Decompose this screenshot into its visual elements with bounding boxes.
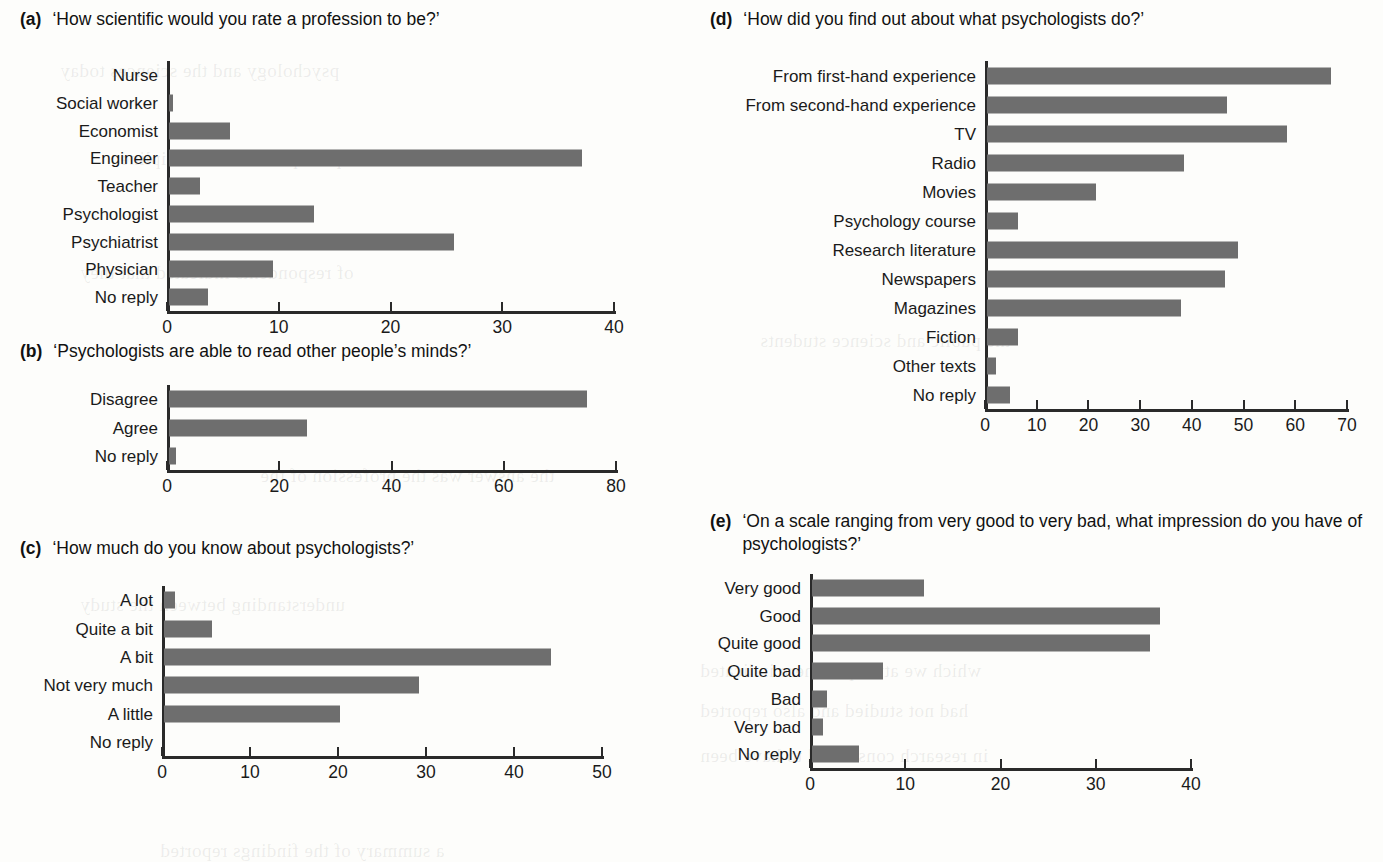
- x-axis-tick-label: 30: [493, 319, 512, 337]
- category-label: Teacher: [98, 178, 167, 195]
- x-axis-tick: [513, 747, 515, 756]
- x-axis-tick: [613, 302, 615, 311]
- category-label: From first-hand experience: [773, 67, 985, 84]
- bar: [169, 261, 273, 278]
- panel-d: (d) ‘How did you find out about what psy…: [710, 8, 1375, 409]
- x-axis-tick: [1243, 400, 1245, 409]
- chart-c: 01020304050A lotQuite a bitA bitNot very…: [20, 586, 670, 756]
- category-label: Research literature: [832, 241, 985, 258]
- category-label: From second-hand experience: [745, 96, 985, 113]
- category-label: Engineer: [90, 150, 167, 167]
- category-label: Fiction: [926, 328, 985, 345]
- x-axis-tick: [501, 302, 503, 311]
- x-axis-tick-label: 10: [1027, 417, 1046, 435]
- category-label: Psychiatrist: [71, 233, 167, 250]
- x-axis-tick-label: 30: [416, 764, 435, 782]
- x-axis-tick-label: 0: [162, 319, 172, 337]
- x-axis-line: [162, 756, 604, 759]
- bar: [169, 150, 582, 167]
- category-label: Not very much: [43, 677, 162, 694]
- bar: [987, 386, 1010, 403]
- panel-c-letter: (c): [20, 537, 41, 560]
- x-axis-tick: [1036, 400, 1038, 409]
- x-axis-tick-label: 40: [1181, 776, 1200, 794]
- chart-b-plot: 020406080DisagreeAgreeNo reply: [167, 385, 616, 470]
- bar: [169, 122, 230, 139]
- bar: [812, 718, 823, 735]
- x-axis-tick-label: 0: [157, 764, 167, 782]
- y-axis-line: [162, 586, 165, 758]
- bar: [987, 67, 1331, 84]
- bar: [164, 592, 175, 609]
- category-label: No reply: [90, 733, 162, 750]
- x-axis-tick: [1139, 400, 1141, 409]
- category-label: No reply: [95, 289, 167, 306]
- category-label: Movies: [922, 183, 985, 200]
- panel-c-question: ‘How much do you know about psychologist…: [52, 537, 414, 560]
- bar: [169, 205, 314, 222]
- category-label: Newspapers: [882, 270, 986, 287]
- bar: [987, 154, 1184, 171]
- x-axis-tick: [390, 302, 392, 311]
- bar: [812, 580, 924, 597]
- category-label: TV: [954, 125, 985, 142]
- panel-d-heading: (d) ‘How did you find out about what psy…: [710, 8, 1375, 31]
- x-axis-tick: [337, 747, 339, 756]
- category-label: A little: [108, 705, 162, 722]
- bar: [169, 178, 200, 195]
- category-label: Very good: [724, 580, 810, 597]
- bar: [987, 96, 1227, 113]
- bar: [987, 328, 1018, 345]
- panel-a-heading: (a) ‘How scientific would you rate a pro…: [20, 8, 670, 31]
- bar: [164, 677, 419, 694]
- chart-b: 020406080DisagreeAgreeNo reply: [20, 385, 670, 470]
- bar: [164, 705, 340, 722]
- category-label: Social worker: [56, 94, 167, 111]
- x-axis-tick-label: 20: [991, 776, 1010, 794]
- category-label: Bad: [771, 690, 810, 707]
- category-label: Disagree: [90, 391, 167, 408]
- x-axis-tick-label: 60: [494, 478, 513, 496]
- panel-e: (e) ‘On a scale ranging from very good t…: [710, 510, 1375, 768]
- category-label: No reply: [913, 386, 985, 403]
- chart-d-plot: 010203040506070From first-hand experienc…: [985, 61, 1347, 409]
- x-axis-tick: [1190, 759, 1192, 768]
- bar: [812, 663, 883, 680]
- panel-e-letter: (e): [710, 510, 731, 533]
- x-axis-tick: [503, 461, 505, 470]
- x-axis-tick-label: 40: [382, 478, 401, 496]
- x-axis-tick-label: 20: [1079, 417, 1098, 435]
- panel-c-heading: (c) ‘How much do you know about psycholo…: [20, 537, 670, 560]
- x-axis-tick: [601, 747, 603, 756]
- bar: [169, 94, 173, 111]
- x-axis-tick-label: 10: [240, 764, 259, 782]
- category-label: Good: [759, 607, 810, 624]
- x-axis-tick: [391, 461, 393, 470]
- x-axis-tick: [1191, 400, 1193, 409]
- x-axis-tick: [278, 461, 280, 470]
- bar: [812, 690, 827, 707]
- x-axis-tick: [1294, 400, 1296, 409]
- bar: [164, 648, 551, 665]
- category-label: A bit: [120, 648, 162, 665]
- category-label: Psychology course: [833, 212, 985, 229]
- x-axis-tick: [1000, 759, 1002, 768]
- x-axis-tick-label: 10: [269, 319, 288, 337]
- panel-e-heading: (e) ‘On a scale ranging from very good t…: [710, 510, 1375, 556]
- bar: [164, 620, 212, 637]
- chart-d: 010203040506070From first-hand experienc…: [710, 61, 1375, 409]
- bar: [812, 746, 859, 763]
- bar: [169, 447, 176, 464]
- x-axis-tick-label: 20: [270, 478, 289, 496]
- category-label: No reply: [738, 746, 810, 763]
- bar: [987, 212, 1018, 229]
- x-axis-line: [167, 470, 618, 473]
- x-axis-tick: [278, 302, 280, 311]
- category-label: Quite good: [718, 635, 810, 652]
- panel-a-question: ‘How scientific would you rate a profess…: [52, 8, 439, 31]
- x-axis-tick-label: 40: [504, 764, 523, 782]
- category-label: Quite a bit: [76, 620, 163, 637]
- x-axis-line: [167, 311, 616, 314]
- category-label: Other texts: [893, 357, 985, 374]
